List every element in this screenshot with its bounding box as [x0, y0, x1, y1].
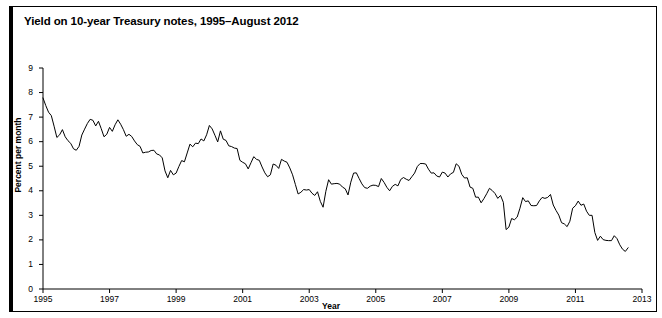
line-plot-canvas	[0, 0, 662, 318]
x-tick-label: 2011	[555, 295, 595, 304]
y-tick-label: 3	[11, 211, 33, 220]
x-tick-label: 2009	[489, 295, 529, 304]
chart-figure: Yield on 10-year Treasury notes, 1995–Au…	[0, 0, 662, 318]
x-tick-label: 2003	[289, 295, 329, 304]
y-tick-label: 0	[11, 285, 33, 294]
y-tick-label: 2	[11, 235, 33, 244]
x-tick-label: 1997	[90, 295, 130, 304]
y-tick-label: 7	[11, 113, 33, 122]
y-tick-label: 6	[11, 137, 33, 146]
x-tick-label: 1999	[156, 295, 196, 304]
x-tick-label: 1995	[23, 295, 63, 304]
x-tick-label: 2001	[223, 295, 263, 304]
y-tick-label: 5	[11, 162, 33, 171]
y-tick-label: 9	[11, 64, 33, 73]
data-series-line	[43, 98, 628, 251]
y-tick-label: 1	[11, 260, 33, 269]
y-tick-label: 4	[11, 186, 33, 195]
y-tick-label: 8	[11, 88, 33, 97]
x-tick-label: 2007	[422, 295, 462, 304]
plot-area: Percent per month Year 01234567891995199…	[0, 0, 662, 318]
x-tick-label: 2005	[356, 295, 396, 304]
x-tick-label: 2013	[622, 295, 662, 304]
